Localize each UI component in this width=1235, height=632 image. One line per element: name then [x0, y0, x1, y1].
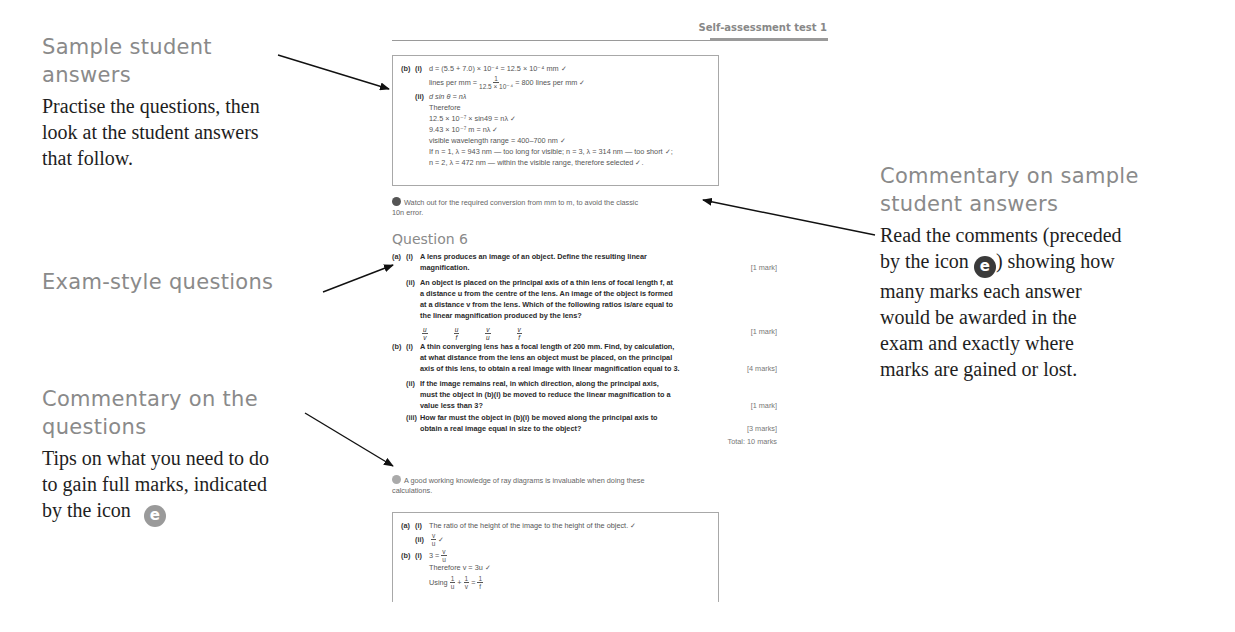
heading-line: Sample student [42, 33, 342, 61]
e-icon [392, 197, 401, 206]
subpart-label: (ii) [415, 534, 429, 545]
ratio-option: vf [517, 326, 522, 341]
body-line: many marks each answer [880, 278, 1220, 304]
page-fade [385, 600, 845, 632]
question-line: value less than 3? [420, 401, 483, 410]
answer-line: d = (5.5 + 7.0) × 10⁻⁴ = 12.5 × 10⁻⁴ mm … [429, 63, 567, 74]
part-label: (b) [401, 63, 415, 74]
callout-heading: Sample student answers [42, 33, 342, 89]
answer-line: The ratio of the height of the image to … [429, 520, 636, 531]
part-label: (a) [392, 251, 406, 273]
callout-commentary-on-sample-answers: Commentary on sample student answers Rea… [880, 162, 1220, 382]
marks-label: [1 mark] [751, 400, 777, 411]
numerator: 1 [450, 575, 456, 583]
callout-commentary-on-questions: Commentary on the questions Tips on what… [42, 385, 362, 527]
question-line: A thin converging lens has a focal lengt… [420, 342, 674, 351]
question-line: must the object in (b)(i) be moved to re… [420, 390, 671, 399]
answer-line: 9.43 × 10⁻⁷ m = nλ ✓ [429, 124, 498, 135]
callout-exam-style-questions: Exam-style questions [42, 268, 342, 296]
subpart-label: (i) [415, 550, 429, 561]
answer-line: 12.5 × 10⁻⁷ × sin49 = nλ ✓ [429, 113, 516, 124]
body-line: by the icon e) showing how [880, 248, 1220, 278]
question-part-b-ii: (ii) If the image remains real, in which… [392, 378, 777, 411]
ratio-options: uv uf vu vf [1 mark] [392, 321, 777, 341]
heading-line: questions [42, 413, 362, 441]
question-line: axis of this lens, to obtain a real imag… [420, 364, 680, 373]
e-icon: e [144, 505, 166, 527]
answer-line: Therefore v = 3u ✓ [429, 562, 491, 573]
denominator: u [451, 583, 455, 590]
fraction: vu [431, 532, 436, 547]
denominator: f [479, 583, 481, 590]
denominator: f [456, 334, 458, 341]
question-line: the linear magnification produced by the… [420, 311, 582, 320]
callout-heading: Commentary on the questions [42, 385, 362, 441]
subpart-label: (ii) [415, 91, 429, 102]
numerator: v [431, 532, 436, 540]
heading-line: Commentary on the [42, 385, 362, 413]
fraction: vu [441, 548, 446, 563]
numerator: 1 [477, 575, 483, 583]
answer-line: Using [429, 577, 448, 588]
denominator: 12.5 × 10⁻⁴ [479, 83, 513, 90]
question-line: An object is placed on the principal axi… [420, 278, 673, 287]
denominator: u [486, 334, 490, 341]
subpart-label: (i) [406, 341, 420, 374]
question-line: If the image remains real, in which dire… [420, 379, 659, 388]
body-text: ) showing how [996, 250, 1115, 272]
total-row: Total: 10 marks [392, 434, 777, 446]
ratio-option: vu [485, 326, 490, 341]
answer-line: visible wavelength range = 400–700 nm ✓ [429, 135, 566, 146]
body-text: by the icon [880, 250, 969, 272]
callout-body: Tips on what you need to do to gain full… [42, 445, 362, 527]
answer-commentary: Watch out for the required conversion fr… [392, 197, 722, 218]
ratio-option: uv [422, 326, 428, 341]
marks-label: [1 mark] [751, 326, 777, 337]
total-marks: Total: 10 marks [728, 436, 777, 447]
question-part-b-i: (b) (i) A thin converging lens has a foc… [392, 341, 777, 374]
answer-line: Therefore [429, 102, 461, 113]
subpart-label: (i) [406, 251, 420, 273]
heading-line: answers [42, 61, 342, 89]
numerator: v [485, 326, 490, 334]
subpart-label: (i) [415, 63, 429, 74]
heading-line: student answers [880, 190, 1220, 218]
answer-line: n = 2, λ = 472 nm — within the visible r… [429, 157, 643, 168]
question-part-b-iii: (iii) How far must the object in (b)(i) … [392, 412, 777, 434]
question-text: An object is placed on the principal axi… [420, 277, 720, 321]
sample-answer-box-q5: (b) (i) d = (5.5 + 7.0) × 10⁻⁴ = 12.5 × … [392, 55, 719, 186]
header-rule-accent [710, 38, 828, 41]
answer-line: d sin θ = nλ [429, 91, 466, 102]
body-line: Practise the questions, then [42, 93, 342, 119]
e-icon [392, 475, 401, 484]
question-part-a-ii: (ii) An object is placed on the principa… [392, 277, 777, 321]
marks-label: [4 marks] [747, 363, 777, 374]
question-text: A lens produces an image of an object. D… [420, 251, 720, 273]
part-label: (a) [401, 520, 415, 531]
denominator: v [465, 583, 468, 590]
answer-line: 3 = [429, 550, 439, 561]
numerator: 1 [493, 75, 499, 83]
question-line: a distance u from the centre of the lens… [420, 289, 673, 298]
question-text: If the image remains real, in which dire… [420, 378, 720, 411]
answer-line: lines per mm = [429, 77, 477, 88]
part-label: (b) [392, 341, 406, 374]
callout-body: Practise the questions, then look at the… [42, 93, 342, 171]
question-title: Question 6 [392, 231, 468, 247]
subpart-label: (ii) [406, 277, 420, 321]
body-text: by the icon [42, 499, 131, 521]
numerator: 1 [464, 575, 470, 583]
callout-body: Read the comments (preceded by the icon … [880, 222, 1220, 382]
textbook-page: Self-assessment test 1 (b) (i) d = (5.5 … [385, 0, 845, 632]
question-commentary: A good working knowledge of ray diagrams… [392, 475, 722, 496]
body-line: exam and exactly where [880, 330, 1220, 356]
answer-line: = 800 lines per mm ✓ [515, 77, 585, 88]
question-text: How far must the object in (b)(i) be mov… [420, 412, 720, 434]
fraction: 1f [477, 575, 483, 590]
e-icon: e [974, 256, 996, 278]
marks-label: [3 marks] [747, 423, 777, 434]
denominator: u [432, 540, 436, 547]
fraction: 1 12.5 × 10⁻⁴ [479, 75, 513, 90]
numerator: v [517, 326, 522, 334]
comment-text: Watch out for the required conversion fr… [404, 198, 638, 207]
